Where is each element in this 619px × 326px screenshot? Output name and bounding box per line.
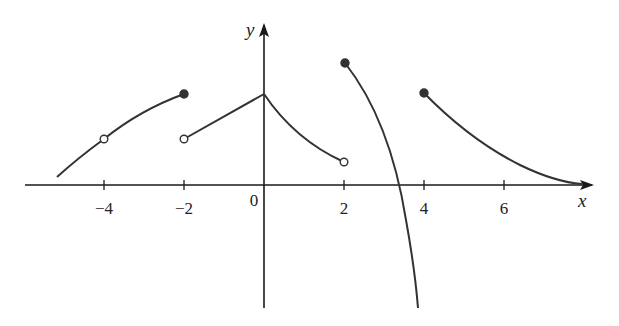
axes: x y	[25, 19, 592, 308]
tick-label-4: 4	[420, 199, 429, 218]
open-dot-minus-4-1	[100, 135, 108, 143]
y-axis-label: y	[244, 19, 255, 40]
closed-dot-2-2_7	[341, 59, 349, 67]
x-tick-labels: −4 −2 0 2 4 6	[95, 191, 508, 218]
tick-label-2: 2	[340, 199, 349, 218]
curve-piece-3	[264, 94, 344, 162]
origin-label: 0	[250, 191, 259, 210]
open-dot-minus-2-1	[180, 135, 188, 143]
tick-label-minus-4: −4	[95, 199, 114, 218]
x-axis-label: x	[577, 190, 587, 211]
piecewise-function-graph: x y −4 −2 0 2 4 6	[0, 0, 619, 326]
closed-dot-4-2	[420, 89, 428, 97]
curve-piece-5	[424, 93, 582, 184]
tick-label-6: 6	[500, 199, 509, 218]
tick-label-minus-2: −2	[175, 199, 193, 218]
open-dot-2-0_5	[340, 158, 348, 166]
curve-piece-2	[184, 94, 264, 139]
curve-piece-1	[57, 94, 184, 177]
closed-dot-minus-2-2	[180, 90, 188, 98]
